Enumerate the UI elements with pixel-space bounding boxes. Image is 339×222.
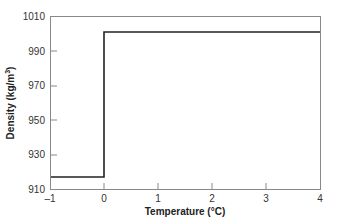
chart: 910 930 950 970 990 1010 –1 0 1 2 3 4 Te… <box>0 0 339 222</box>
x-tick-label: 3 <box>263 193 269 204</box>
y-tick-label: 930 <box>28 149 45 160</box>
y-tick-labels: 910 930 950 970 990 1010 <box>23 11 46 195</box>
plot-area <box>51 17 321 190</box>
x-tick-label: –1 <box>44 193 56 204</box>
y-axis-title-main: Density (kg/m <box>5 74 16 140</box>
x-tick-label: 1 <box>155 193 161 204</box>
x-tick-labels: –1 0 1 2 3 4 <box>44 193 323 204</box>
x-tick-label: 0 <box>101 193 107 204</box>
y-tick-label: 950 <box>28 115 45 126</box>
x-axis-title: Temperature (°C) <box>145 206 226 217</box>
y-tick-label: 1010 <box>23 11 46 22</box>
x-axis <box>104 183 266 190</box>
x-tick-label: 2 <box>209 193 215 204</box>
y-tick-label: 970 <box>28 80 45 91</box>
y-tick-label: 990 <box>28 46 45 57</box>
y-tick-label: 910 <box>28 184 45 195</box>
density-line <box>51 32 320 177</box>
y-axis-title-end: ) <box>5 67 16 70</box>
y-axis-title: Density (kg/m3) <box>4 67 16 140</box>
x-tick-label: 4 <box>317 193 323 204</box>
y-axis <box>51 51 58 155</box>
